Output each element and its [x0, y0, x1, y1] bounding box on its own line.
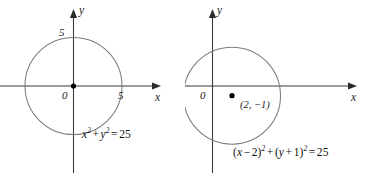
eq-equals: = — [307, 146, 317, 158]
x-axis-label: x — [351, 92, 356, 104]
eq-rhs: 25 — [317, 146, 329, 158]
equation-right: (x−2)2+(y+1)2=25 — [233, 147, 329, 159]
eq-plus: + — [91, 128, 101, 140]
eq-rhs: 25 — [119, 128, 131, 140]
origin-label: 0 — [62, 90, 68, 101]
x-tick-label-5: 5 — [118, 90, 124, 101]
eq-equals: = — [110, 128, 120, 140]
origin-label: 0 — [200, 90, 206, 101]
equation-left: x2+y2=25 — [82, 129, 131, 141]
eq-plus-inner: + — [284, 146, 294, 158]
eq-plus: + — [265, 146, 275, 158]
y-axis-arrowhead — [209, 9, 216, 18]
x-axis-label: x — [155, 92, 160, 104]
x-axis-arrowhead — [348, 82, 357, 89]
y-axis-label: y — [217, 5, 222, 17]
y-tick-label-5: 5 — [59, 27, 65, 38]
y-axis-arrowhead — [70, 9, 77, 18]
origin-dot — [71, 83, 76, 88]
graph-panel-right: y x 0 (2, −1) (x−2)2+(y+1)2=25 — [185, 0, 370, 173]
left-panel-graphics — [0, 0, 185, 173]
graph-panel-left: y x 5 5 0 x2+y2=25 — [0, 0, 185, 173]
center-point-dot — [229, 93, 234, 98]
center-point-label: (2, −1) — [240, 100, 270, 111]
x-axis-arrowhead — [152, 82, 161, 89]
eq-minus: − — [242, 146, 252, 158]
y-axis-label: y — [79, 5, 84, 17]
two-circle-graph-figure: y x 5 5 0 x2+y2=25 y x 0 (2, −1) (x−2)2+… — [0, 0, 370, 173]
